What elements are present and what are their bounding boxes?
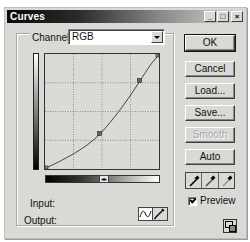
gradient-direction-toggle[interactable]: ◂▸ bbox=[99, 175, 109, 183]
load-button[interactable]: Load... bbox=[185, 83, 235, 99]
output-gradient-bar bbox=[33, 53, 39, 170]
resize-icon bbox=[225, 221, 236, 232]
channel-value: RGB bbox=[72, 31, 94, 43]
cancel-button[interactable]: Cancel bbox=[185, 61, 235, 77]
curve-icon bbox=[139, 208, 152, 220]
pencil-icon bbox=[153, 208, 166, 220]
input-label: Input: bbox=[30, 198, 55, 210]
white-point-eyedropper[interactable] bbox=[219, 173, 234, 188]
curve-point bbox=[98, 132, 102, 136]
gray-point-eyedropper[interactable] bbox=[202, 173, 218, 188]
curve-point bbox=[45, 166, 48, 169]
auto-button[interactable]: Auto bbox=[185, 149, 235, 165]
eyedropper-white-icon bbox=[222, 175, 233, 187]
eyedropper-group bbox=[185, 172, 235, 189]
preview-option[interactable]: Preview bbox=[188, 195, 236, 207]
smooth-button: Smooth bbox=[185, 127, 235, 143]
channel-dropdown[interactable]: RGB bbox=[68, 29, 165, 45]
curves-dialog: Curves _ □ × Channel: RGB bbox=[4, 7, 247, 239]
curve-point bbox=[138, 79, 142, 83]
curve-graph[interactable] bbox=[44, 53, 160, 170]
save-button[interactable]: Save... bbox=[185, 105, 235, 121]
minimize-button[interactable]: _ bbox=[204, 11, 216, 22]
preview-checkbox[interactable] bbox=[188, 197, 197, 206]
preview-label: Preview bbox=[200, 195, 236, 207]
eyedropper-black-icon bbox=[189, 175, 200, 187]
curve-mode-button[interactable] bbox=[139, 208, 153, 220]
maximize-button[interactable]: □ bbox=[217, 11, 229, 22]
curve-point bbox=[156, 54, 159, 57]
title-bar[interactable]: Curves _ □ × bbox=[7, 10, 244, 23]
eyedropper-gray-icon bbox=[205, 175, 216, 187]
window-controls: _ □ × bbox=[204, 11, 243, 22]
close-button[interactable]: × bbox=[231, 11, 243, 22]
output-label: Output: bbox=[24, 215, 57, 227]
expand-dialog-button[interactable] bbox=[223, 219, 237, 233]
curve-plot bbox=[45, 54, 159, 169]
input-gradient-bar: ◂▸ bbox=[45, 175, 160, 183]
window-title: Curves bbox=[10, 10, 45, 23]
pencil-mode-button[interactable] bbox=[153, 208, 167, 220]
black-point-eyedropper[interactable] bbox=[186, 173, 202, 188]
ok-button[interactable]: OK bbox=[185, 35, 235, 51]
curve-mode-group bbox=[138, 207, 168, 221]
chevron-down-icon[interactable] bbox=[151, 31, 163, 43]
